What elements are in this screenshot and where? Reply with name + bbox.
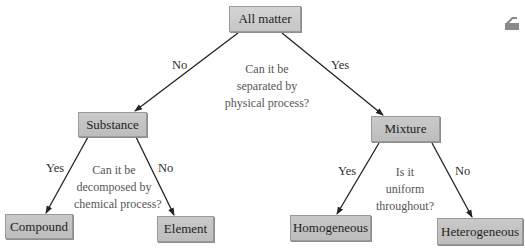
question-root-line-2: separated by (222, 78, 312, 95)
node-heterogeneous: Heterogeneous (437, 218, 523, 245)
branch-label-substance-yes: Yes (46, 161, 64, 176)
branch-label-mixture-no: No (455, 164, 470, 179)
question-substance-line-1: Can it be (74, 162, 154, 179)
matter-classification-diagram: All matter Substance Mixture Compound El… (0, 0, 525, 249)
node-element: Element (157, 216, 214, 242)
page-corner-icon (503, 14, 521, 32)
branch-label-root-yes: Yes (331, 58, 349, 73)
edge-mixture-to-heterogeneous (432, 143, 472, 217)
node-homogeneous: Homogeneous (290, 215, 371, 241)
node-all-matter: All matter (229, 6, 301, 32)
node-heterogeneous-label: Heterogeneous (441, 224, 519, 240)
node-homogeneous-label: Homogeneous (293, 220, 368, 236)
question-mixture-line-1: Is it (375, 164, 435, 181)
branch-label-root-no: No (172, 58, 187, 73)
question-substance-line-2: decomposed by (74, 179, 154, 196)
node-compound-label: Compound (10, 219, 68, 235)
node-substance: Substance (78, 112, 147, 137)
node-compound: Compound (5, 214, 73, 239)
question-root-line-1: Can it be (222, 61, 312, 78)
question-mixture-line-2: uniform (375, 181, 435, 198)
question-mixture-line-3: throughout? (375, 198, 435, 215)
question-root-line-3: physical process? (222, 95, 312, 112)
branch-label-mixture-yes: Yes (338, 164, 356, 179)
question-mixture: Is it uniform throughout? (375, 164, 435, 215)
question-substance: Can it be decomposed by chemical process… (74, 162, 154, 213)
branch-label-substance-no: No (158, 161, 173, 176)
question-root: Can it be separated by physical process? (222, 61, 312, 112)
node-all-matter-label: All matter (238, 11, 291, 27)
node-mixture-label: Mixture (385, 121, 427, 137)
node-substance-label: Substance (86, 117, 139, 133)
question-substance-line-3: chemical process? (74, 196, 154, 213)
node-element-label: Element (164, 221, 207, 237)
node-mixture: Mixture (371, 116, 440, 142)
